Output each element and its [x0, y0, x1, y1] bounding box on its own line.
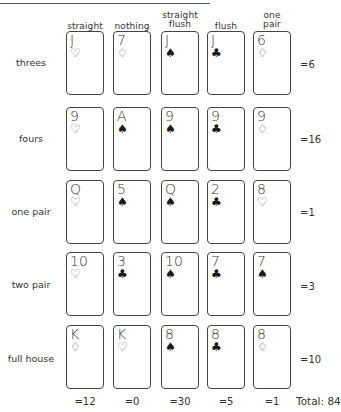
column-score-nothing: =0 [112, 396, 152, 407]
club-icon: ♣ [211, 268, 222, 280]
playing-card[interactable]: 10♠ [161, 252, 199, 316]
spade-icon: ♠ [257, 268, 268, 280]
column-header-flush: flush [204, 13, 248, 31]
card-rank: K [70, 327, 79, 341]
spade-icon: ♠ [165, 341, 176, 353]
diamond-icon: ♢ [257, 341, 268, 353]
card-rank: 2 [211, 182, 220, 196]
column-header-line-2: nothing [110, 22, 154, 31]
row-label-two-pair: two pair [0, 279, 62, 290]
spade-icon: ♠ [165, 268, 176, 280]
club-icon: ♣ [211, 341, 222, 353]
row-score-one-pair: =1 [300, 207, 315, 218]
heart-icon: ♡ [70, 196, 81, 208]
card-rank: 6 [257, 33, 266, 47]
card-rank: 3 [117, 254, 126, 268]
spade-icon: ♠ [165, 123, 176, 135]
column-header-straight-flush: straight flush [158, 11, 202, 29]
card-rank: 9 [165, 109, 174, 123]
playing-card[interactable]: 9♠ [161, 107, 199, 171]
playing-card[interactable]: 9♡ [66, 107, 104, 171]
heart-icon: ♡ [257, 196, 268, 208]
heart-icon: ♡ [70, 268, 81, 280]
card-rank: 8 [165, 327, 174, 341]
diamond-icon: ♢ [257, 47, 268, 59]
playing-card[interactable]: J♣ [207, 31, 245, 95]
playing-card[interactable]: 8♣ [207, 325, 245, 389]
club-icon: ♣ [211, 47, 222, 59]
column-score-straight-flush: =30 [160, 396, 200, 407]
playing-card[interactable]: 3♣ [113, 252, 151, 316]
card-rank: Q [165, 182, 176, 196]
playing-card[interactable]: 8♢ [253, 325, 291, 389]
spade-icon: ♠ [117, 196, 128, 208]
club-icon: ♣ [211, 123, 222, 135]
card-rank: 8 [257, 327, 266, 341]
row-label-one-pair: one pair [0, 206, 62, 217]
diamond-icon: ♢ [257, 123, 268, 135]
card-rank: 7 [117, 33, 126, 47]
card-rank: K [117, 327, 126, 341]
row-label-full-house: full house [0, 353, 62, 364]
playing-card[interactable]: Q♡ [66, 180, 104, 244]
row-score-full-house: =10 [300, 354, 321, 365]
card-rank: 9 [70, 109, 79, 123]
column-header-line-2: flush [204, 22, 248, 31]
column-score-one-pair: =1 [252, 396, 292, 407]
card-rank: J [211, 33, 215, 47]
playing-card[interactable]: 7♠ [253, 252, 291, 316]
club-icon: ♣ [211, 196, 222, 208]
playing-card[interactable]: 9♣ [207, 107, 245, 171]
row-score-fours: =16 [300, 134, 321, 145]
spade-icon: ♠ [117, 123, 128, 135]
row-label-fours: fours [0, 133, 62, 144]
column-score-flush: =5 [206, 396, 246, 407]
playing-card[interactable]: K♡ [113, 325, 151, 389]
card-rank: A [117, 109, 127, 123]
total-score: Total: 84 [296, 395, 341, 407]
card-rank: 7 [211, 254, 220, 268]
column-header-straight: straight [63, 13, 107, 31]
playing-card[interactable]: 9♢ [253, 107, 291, 171]
row-score-two-pair: =3 [300, 281, 315, 292]
playing-card[interactable]: 7♢ [113, 31, 151, 95]
playing-card[interactable]: 8♠ [161, 325, 199, 389]
playing-card[interactable]: 5♠ [113, 180, 151, 244]
playing-card[interactable]: 7♣ [207, 252, 245, 316]
playing-card[interactable]: K♢ [66, 325, 104, 389]
playing-card[interactable]: 10♡ [66, 252, 104, 316]
card-rank: 10 [70, 254, 88, 268]
card-rank: 9 [211, 109, 220, 123]
column-header-line-2: flush [158, 20, 202, 29]
playing-card[interactable]: 6♢ [253, 31, 291, 95]
column-header-line-2: pair [250, 20, 294, 29]
column-header-one-pair: one pair [250, 11, 294, 29]
playing-card[interactable]: J♡ [66, 31, 104, 95]
card-rank: Q [70, 182, 81, 196]
card-rank: J [165, 33, 169, 47]
spade-icon: ♠ [165, 196, 176, 208]
card-rank: 10 [165, 254, 183, 268]
heart-icon: ♡ [70, 123, 81, 135]
card-rank: 9 [257, 109, 266, 123]
card-rank: 8 [211, 327, 220, 341]
column-score-straight: =12 [65, 396, 105, 407]
card-rank: J [70, 33, 74, 47]
heart-icon: ♡ [70, 47, 81, 59]
playing-card[interactable]: Q♠ [161, 180, 199, 244]
diamond-icon: ♢ [70, 341, 81, 353]
heart-icon: ♡ [117, 341, 128, 353]
column-header-line-2: straight [63, 22, 107, 31]
top-rule [0, 3, 210, 4]
row-label-threes: threes [0, 57, 62, 68]
row-score-threes: =6 [300, 59, 315, 70]
diamond-icon: ♢ [117, 47, 128, 59]
playing-card[interactable]: A♠ [113, 107, 151, 171]
playing-card[interactable]: 2♣ [207, 180, 245, 244]
playing-card[interactable]: 8♡ [253, 180, 291, 244]
card-rank: 8 [257, 182, 266, 196]
card-rank: 5 [117, 182, 126, 196]
playing-card[interactable]: J♠ [161, 31, 199, 95]
club-icon: ♣ [117, 268, 128, 280]
spade-icon: ♠ [165, 47, 176, 59]
